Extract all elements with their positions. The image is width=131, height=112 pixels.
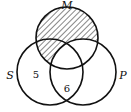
venn-diagram: M S P 5 6	[0, 0, 131, 112]
label-m: M	[60, 0, 73, 12]
label-p: P	[118, 69, 127, 82]
value-s-and-p: 6	[64, 83, 70, 94]
label-s: S	[6, 69, 14, 82]
value-s-only: 5	[33, 69, 39, 80]
